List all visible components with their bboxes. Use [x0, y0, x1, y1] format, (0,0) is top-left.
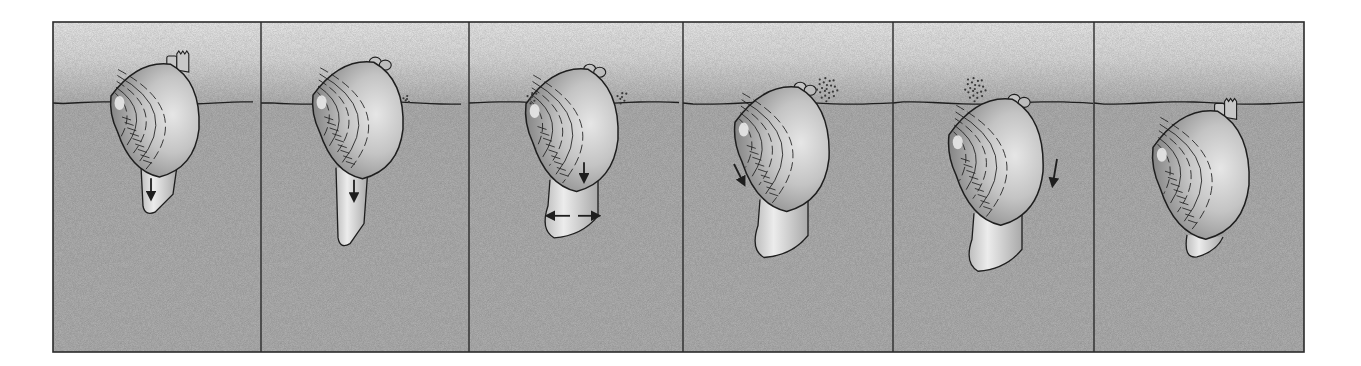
sediment-puff: [976, 97, 978, 99]
sediment-puff: [623, 100, 625, 102]
sediment-puff: [982, 86, 984, 88]
sediment-puff: [531, 96, 533, 98]
sediment-puff: [973, 100, 975, 102]
sediment-puff: [964, 89, 966, 91]
panel-1: [53, 22, 261, 352]
sediment-puff: [974, 88, 976, 90]
sediment-puff: [824, 90, 826, 92]
sediment-puff: [836, 89, 838, 91]
sediment-puff: [980, 91, 982, 93]
sediment-puff: [402, 97, 404, 99]
sediment-puff: [974, 84, 976, 86]
sediment-puff: [826, 84, 828, 86]
sediment-puff: [825, 100, 827, 102]
sediment-puff: [819, 78, 821, 80]
sediment-puff: [619, 98, 621, 100]
sediment-puff: [816, 89, 818, 91]
sediment-puff: [984, 89, 986, 91]
sediment-puff: [971, 81, 973, 83]
sediment-puff: [616, 95, 618, 97]
sediment-puff: [972, 90, 974, 92]
sediment-puff: [826, 88, 828, 90]
sediment-puff: [406, 95, 408, 97]
sediment-puff: [824, 95, 826, 97]
shell-umbo-highlight: [530, 104, 540, 118]
sediment-puff: [621, 92, 623, 94]
sediment-puff: [821, 97, 823, 99]
panel-3: [469, 22, 683, 352]
panels-layer: [53, 22, 1304, 352]
sediment-puff: [981, 79, 983, 81]
panel-5: [893, 22, 1094, 352]
shell-umbo-highlight: [953, 135, 963, 149]
clam-burrowing-sequence-figure: [0, 0, 1361, 366]
sediment-puff: [821, 87, 823, 89]
sediment-puff: [529, 98, 531, 100]
sediment-puff: [969, 97, 971, 99]
sediment-puff: [976, 92, 978, 94]
sediment-puff: [830, 84, 832, 86]
siphon-excurrent-fringed: [1225, 98, 1237, 119]
panel-4: [683, 22, 893, 352]
panel-2: [261, 22, 469, 352]
sediment-puff: [823, 81, 825, 83]
sediment-puff: [818, 83, 820, 85]
sediment-puff: [625, 93, 627, 95]
shell-umbo-highlight: [115, 96, 125, 110]
sediment-puff: [967, 83, 969, 85]
sediment-puff: [526, 95, 528, 97]
sediment-puff: [828, 97, 830, 99]
sediment-puff: [832, 91, 834, 93]
shell-umbo-highlight: [317, 95, 327, 109]
sediment-puff: [977, 80, 979, 82]
sediment-puff: [533, 100, 535, 102]
sediment-puff: [972, 95, 974, 97]
sediment-puff: [967, 91, 969, 93]
sediment-puff: [978, 84, 980, 86]
sediment-puff: [832, 79, 834, 81]
sediment-puff: [408, 101, 410, 103]
sediment-puff: [819, 91, 821, 93]
sediment-puff: [824, 77, 826, 79]
sediment-puff: [829, 80, 831, 82]
sediment-puff: [531, 92, 533, 94]
sediment-puff: [834, 86, 836, 88]
panel-6: [1094, 22, 1304, 352]
sediment-puff: [828, 92, 830, 94]
sediment-puff: [529, 102, 531, 104]
shell-umbo-highlight: [1157, 148, 1167, 162]
shell-umbo-highlight: [739, 123, 749, 137]
sediment-puff: [981, 95, 983, 97]
sediment-puff: [967, 78, 969, 80]
sediment-puff: [535, 93, 537, 95]
sediment-puff: [405, 99, 407, 101]
sediment-puff: [619, 102, 621, 104]
sediment-puff: [621, 96, 623, 98]
sediment-puff: [972, 77, 974, 79]
sediment-puff: [833, 95, 835, 97]
sediment-puff: [969, 87, 971, 89]
